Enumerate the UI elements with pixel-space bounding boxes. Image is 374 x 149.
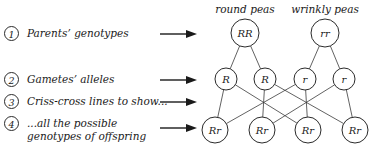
parent-nodes: RRrr [231, 19, 339, 47]
phenotype-header: round peas [215, 3, 275, 15]
parent-genotype-node-label: RR [236, 28, 253, 39]
parent-genotype-node: rr [311, 19, 339, 47]
criss-cross-line [306, 90, 308, 117]
phenotype-header: wrinkly peas [291, 3, 359, 15]
gamete-nodes: RRrr [215, 68, 355, 90]
offspring-genotype-node: Rr [202, 117, 228, 143]
gamete-allele-node: r [333, 68, 355, 90]
cross-chart: round peaswrinkly peas RRrr RRrr RrRrRrR… [0, 0, 374, 149]
parent-gamete-line [330, 46, 339, 69]
gamete-allele-node-label: R [221, 74, 230, 85]
offspring-genotype-node: Rr [295, 117, 321, 143]
offspring-genotype-node: Rr [342, 117, 368, 143]
parent-gamete-line [309, 46, 319, 69]
parent-genotype-node: RR [231, 19, 259, 47]
chart-headers: round peaswrinkly peas [215, 3, 359, 15]
criss-cross-line [218, 90, 224, 118]
criss-cross-line [263, 90, 265, 117]
gamete-allele-node-label: R [260, 74, 269, 85]
parent-gamete-line [230, 46, 239, 69]
genetics-cross-diagram: 1 Parents’ genotypes 2 Gametes’ alleles … [0, 0, 374, 149]
gamete-allele-node: r [294, 68, 316, 90]
parent-gamete-links [230, 46, 340, 69]
parent-genotype-node-label: rr [320, 28, 331, 39]
criss-cross-links [218, 84, 353, 123]
offspring-genotype-node-label: Rr [301, 125, 316, 136]
offspring-genotype-node-label: Rr [348, 125, 363, 136]
gamete-allele-node: R [254, 68, 276, 90]
criss-cross-line [346, 90, 352, 118]
offspring-nodes: RrRrRrRr [202, 117, 368, 143]
offspring-genotype-node-label: Rr [255, 125, 270, 136]
gamete-allele-node: R [215, 68, 237, 90]
parent-gamete-line [251, 46, 261, 69]
offspring-genotype-node: Rr [249, 117, 275, 143]
offspring-genotype-node-label: Rr [208, 125, 223, 136]
